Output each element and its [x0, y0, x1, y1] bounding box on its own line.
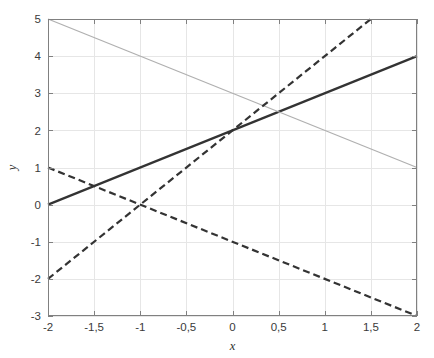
y-axis-label: y	[5, 164, 19, 172]
line-chart: -2-1,5-1-0,500,511,52 -3-2-1012345 x y	[0, 0, 434, 358]
x-axis-label: x	[229, 339, 236, 353]
x-tick-label: 1,5	[363, 321, 379, 333]
y-tick-label: -3	[31, 310, 41, 322]
x-tick-label: 1	[322, 321, 328, 333]
y-tick-label: -2	[31, 273, 41, 285]
plot-background	[48, 19, 417, 316]
x-tick-label: -0,5	[176, 321, 196, 333]
y-tick-label: 4	[35, 50, 42, 62]
x-tick-label: -1	[135, 321, 145, 333]
x-tick-label: 0	[229, 321, 235, 333]
x-axis-tick-labels: -2-1,5-1-0,500,511,52	[43, 321, 420, 333]
y-tick-label: 2	[35, 125, 41, 137]
y-axis-tick-labels: -3-2-1012345	[31, 13, 42, 322]
x-tick-label: 0,5	[271, 321, 287, 333]
y-tick-label: 5	[35, 13, 41, 25]
x-tick-label: -1,5	[84, 321, 104, 333]
y-tick-label: 1	[35, 162, 41, 174]
y-tick-label: 0	[35, 199, 41, 211]
y-tick-label: -1	[31, 236, 41, 248]
y-tick-label: 3	[35, 87, 41, 99]
x-tick-label: -2	[43, 321, 53, 333]
figure-canvas: -2-1,5-1-0,500,511,52 -3-2-1012345 x y	[0, 0, 434, 358]
x-tick-label: 2	[414, 321, 420, 333]
